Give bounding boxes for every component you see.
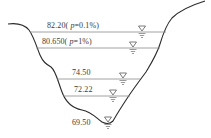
elevation-value: 80.650(	[42, 37, 69, 46]
terrain-profile	[8, 1, 205, 123]
elevation-value: 82.20(	[47, 21, 70, 30]
probability-value: =1%)	[74, 37, 92, 46]
elevation-value: 69.50	[72, 118, 91, 127]
elevation-label-level-3: 74.50	[72, 69, 91, 77]
river-cross-section-diagram	[0, 0, 211, 138]
probability-value: =0.1%)	[74, 21, 98, 30]
elevation-value: 72.22	[74, 85, 93, 94]
elevation-label-level-1: 82.20( p=0.1%)	[47, 22, 99, 30]
elevation-label-level-2: 80.650( p=1%)	[42, 38, 92, 46]
water-level-markers	[105, 26, 146, 129]
elevation-label-level-5: 69.50	[72, 119, 91, 127]
elevation-label-level-4: 72.22	[74, 86, 93, 94]
elevation-value: 74.50	[72, 68, 91, 77]
